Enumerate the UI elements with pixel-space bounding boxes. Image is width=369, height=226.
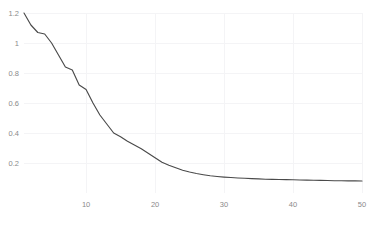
x-tick-label: 10 (82, 200, 90, 209)
y-tick-label: 0.8 (9, 69, 19, 78)
y-tick-label: 0.6 (9, 99, 19, 108)
y-tick-label: 1.2 (9, 9, 19, 18)
x-tick-label: 20 (151, 200, 159, 209)
y-tick-label: 0.4 (9, 129, 19, 138)
y-tick-label: 0.2 (9, 159, 19, 168)
chart-container: 0.20.40.60.811.2 1020304050 (0, 0, 369, 226)
chart-background (0, 0, 369, 226)
x-tick-label: 30 (220, 200, 228, 209)
x-tick-label: 50 (358, 200, 366, 209)
y-tick-label: 1 (15, 39, 19, 48)
line-chart: 0.20.40.60.811.2 1020304050 (0, 0, 369, 226)
x-tick-label: 40 (289, 200, 297, 209)
